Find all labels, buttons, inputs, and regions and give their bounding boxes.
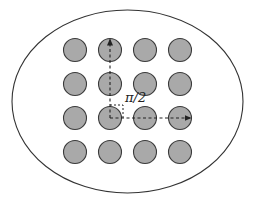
particle [169,39,192,62]
particle [64,39,87,62]
particle [64,141,87,164]
particle [169,141,192,164]
particle [99,141,122,164]
particle [134,141,157,164]
particle [134,39,157,62]
particle [64,73,87,96]
lattice-diagram: π/2 [0,0,253,202]
angle-label: π/2 [124,90,146,105]
particle [64,107,87,130]
particle [169,73,192,96]
